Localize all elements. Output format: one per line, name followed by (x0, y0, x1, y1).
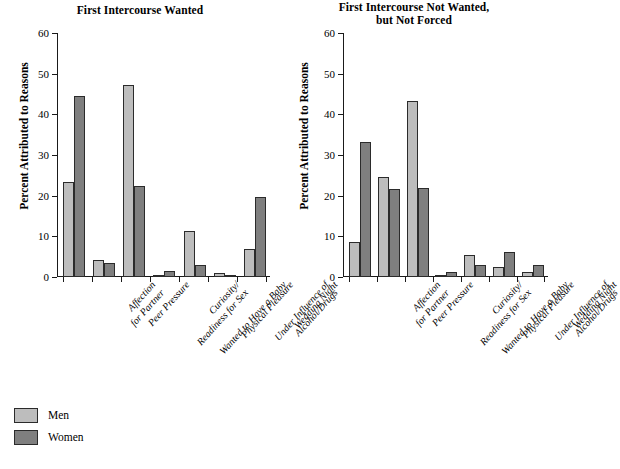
legend: Men Women (14, 404, 154, 448)
y-tick-label-50: 50 (324, 68, 335, 80)
bar-women[interactable] (104, 263, 115, 277)
panel-title-right: First Intercourse Not Wanted, but Not Fo… (280, 1, 548, 27)
y-axis-title-right: Percent Attributed to Reasons (298, 46, 310, 226)
legend-swatch-women (14, 430, 38, 445)
bar-women[interactable] (389, 189, 400, 277)
bar-group (153, 33, 175, 277)
y-tick-label-10: 10 (38, 230, 49, 242)
bar-group (214, 33, 236, 277)
y-tick-label-40: 40 (324, 108, 335, 120)
legend-item-men[interactable]: Men (14, 404, 154, 426)
bar-men[interactable] (93, 260, 104, 277)
x-axis-labels-right: Affection for Partner Peer Pressure Curi… (343, 279, 550, 397)
bar-group (435, 33, 457, 277)
bar-groups-left (57, 33, 270, 277)
bar-group (349, 33, 371, 277)
panel-first-intercourse-not-wanted: First Intercourse Not Wanted, but Not Fo… (280, 0, 548, 400)
bar-men[interactable] (123, 85, 134, 277)
bar-women[interactable] (418, 188, 429, 277)
bar-women[interactable] (504, 252, 515, 277)
bar-men[interactable] (378, 177, 389, 277)
bar-group (63, 33, 85, 277)
y-tick-label-60: 60 (38, 27, 49, 39)
legend-label-men: Men (48, 409, 69, 421)
y-tick-label-20: 20 (38, 190, 49, 202)
bar-women[interactable] (360, 142, 371, 277)
bar-group (407, 33, 429, 277)
y-tick-label-30: 30 (38, 149, 49, 161)
y-tick-label-0: 0 (330, 271, 336, 283)
bar-men[interactable] (464, 255, 475, 277)
legend-label-women: Women (48, 431, 83, 443)
y-tick-label-10: 10 (324, 230, 335, 242)
bar-women[interactable] (134, 186, 145, 277)
plot-area-right: 0 10 20 30 40 50 60 (343, 33, 548, 277)
bar-group (93, 33, 115, 277)
bar-women[interactable] (475, 265, 486, 277)
panel-title-left: First Intercourse Wanted (0, 4, 280, 17)
bar-men[interactable] (493, 267, 504, 277)
bar-group (184, 33, 206, 277)
bar-men[interactable] (244, 249, 255, 277)
bar-women[interactable] (74, 96, 85, 277)
y-tick-label-20: 20 (324, 190, 335, 202)
legend-swatch-men (14, 408, 38, 423)
bar-men[interactable] (184, 231, 195, 277)
bar-group (493, 33, 515, 277)
bar-women[interactable] (533, 265, 544, 277)
bar-men[interactable] (407, 101, 418, 277)
y-tick-label-40: 40 (38, 108, 49, 120)
y-tick-label-60: 60 (324, 27, 335, 39)
plot-area-left: 0 10 20 30 40 50 60 (57, 33, 270, 277)
bar-group (378, 33, 400, 277)
y-tick-label-50: 50 (38, 68, 49, 80)
panel-title-left-line1: First Intercourse Wanted (77, 4, 204, 16)
bar-men[interactable] (349, 242, 360, 277)
bar-group (522, 33, 544, 277)
bar-group (244, 33, 266, 277)
x-axis-labels-left: Affection for Partner Peer Pressure Curi… (57, 279, 272, 397)
bar-women[interactable] (195, 265, 206, 277)
legend-item-women[interactable]: Women (14, 426, 154, 448)
bar-men[interactable] (63, 182, 74, 277)
bar-group (464, 33, 486, 277)
bar-group (123, 33, 145, 277)
panel-title-right-line2: but Not Forced (280, 14, 548, 27)
bar-groups-right (343, 33, 548, 277)
y-tick-label-0: 0 (44, 271, 50, 283)
panel-first-intercourse-wanted: First Intercourse Wanted Percent Attribu… (0, 0, 280, 400)
bar-women[interactable] (255, 197, 266, 277)
panel-title-right-line1: First Intercourse Not Wanted, (280, 1, 548, 14)
y-tick-label-30: 30 (324, 149, 335, 161)
y-axis-title-left: Percent Attributed to Reasons (18, 46, 30, 226)
